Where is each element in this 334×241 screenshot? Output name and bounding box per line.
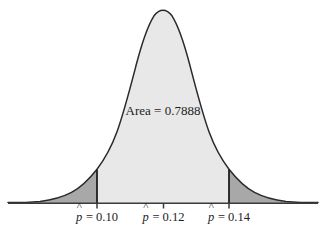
p-hat-symbol: ^p: [143, 208, 150, 226]
tick-value: 0.12: [163, 210, 185, 224]
x-tick-label-lower: ^p = 0.10: [76, 208, 118, 226]
tick-value: 0.10: [96, 210, 118, 224]
p-letter: p: [143, 210, 149, 224]
left-tail-shaded-region: [8, 169, 97, 203]
p-letter: p: [208, 210, 214, 224]
equals-sign: =: [215, 210, 228, 224]
circumflex-icon: ^: [208, 201, 215, 212]
tick-value: 0.14: [228, 210, 250, 224]
distribution-plot: [0, 0, 334, 241]
circumflex-icon: ^: [143, 201, 150, 212]
area-annotation-label: Area = 0.7888: [126, 103, 201, 119]
equals-sign: =: [149, 210, 162, 224]
normal-distribution-figure: Area = 0.7888 ^p = 0.10 ^p = 0.12 ^p = 0…: [0, 0, 334, 241]
p-letter: p: [76, 210, 82, 224]
p-hat-symbol: ^p: [208, 208, 215, 226]
right-tail-shaded-region: [229, 169, 318, 203]
circumflex-icon: ^: [76, 201, 83, 212]
x-tick-label-upper: ^p = 0.14: [208, 208, 250, 226]
x-axis-label-row: ^p = 0.10 ^p = 0.12 ^p = 0.14: [0, 208, 334, 230]
equals-sign: =: [83, 210, 96, 224]
p-hat-symbol: ^p: [76, 208, 83, 226]
x-tick-label-center: ^p = 0.12: [143, 208, 185, 226]
